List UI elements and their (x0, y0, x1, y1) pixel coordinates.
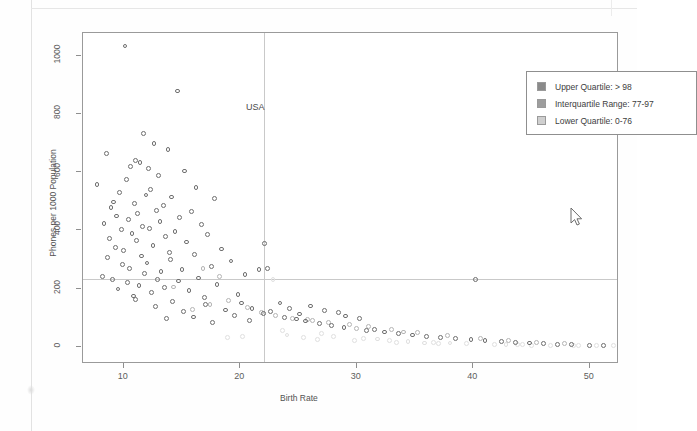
x-axis-tick (472, 363, 473, 368)
legend-item-interquartile-range: Interquartile Range: 77-97 (537, 95, 696, 112)
scatter-point (171, 285, 176, 290)
scatter-point (410, 333, 415, 338)
scatter-point (155, 277, 160, 282)
y-axis-tick-label: 400 (52, 211, 62, 245)
scatter-point (119, 227, 124, 232)
scatter-point (176, 279, 181, 284)
legend-label-interquartile-range: Interquartile Range: 77-97 (555, 99, 654, 109)
scatter-point (205, 232, 210, 237)
legend-item-upper-quartile: Upper Quartile: > 98 (537, 78, 696, 95)
scatter-point (504, 342, 509, 347)
scatter-point (167, 250, 172, 255)
scatter-point (343, 314, 348, 319)
scatter-point (138, 160, 143, 165)
scatter-point (357, 316, 362, 321)
scatter-point (601, 343, 606, 348)
scatter-point (329, 323, 334, 328)
scatter-point (422, 341, 427, 346)
scatter-point (347, 322, 352, 327)
scatter-point (151, 243, 156, 248)
plot-frame: USA Upper Quartile: > 98 Interquartile R… (82, 32, 618, 363)
y-axis-tick-label: 1000 (52, 37, 62, 71)
y-axis-tick (76, 229, 81, 230)
scatter-point (548, 343, 553, 348)
scatter-point (436, 341, 441, 346)
y-axis-tick (76, 113, 81, 114)
scatter-point (164, 316, 169, 321)
scatter-point (114, 214, 119, 219)
scatter-point (104, 151, 109, 156)
y-axis-tick (76, 346, 81, 347)
legend-swatch-lower-quartile (537, 116, 546, 125)
scatter-point (123, 44, 128, 49)
x-axis-tick-label: 20 (224, 371, 254, 381)
scatter-point (372, 327, 377, 332)
scatter-point (181, 309, 186, 314)
y-axis-tick-label: 600 (52, 153, 62, 187)
scatter-point (113, 245, 118, 250)
scatter-point (364, 328, 369, 333)
scatter-point (478, 336, 483, 341)
scatter-point (301, 335, 306, 340)
x-axis-title: Birth Rate (280, 393, 420, 403)
scatter-point (109, 205, 114, 210)
scatter-point (121, 248, 126, 253)
scatter-point (154, 208, 159, 213)
scatter-point (294, 317, 299, 322)
scatter-point (273, 313, 278, 318)
scatter-point (541, 341, 546, 346)
scatter-point (162, 285, 167, 290)
y-axis-title: Phones per 1000 Population (48, 128, 58, 278)
scatter-point (520, 342, 525, 347)
scatter-point (527, 341, 532, 346)
x-axis-tick (239, 363, 240, 368)
scatter-point (406, 339, 411, 344)
scatter-point (287, 306, 292, 311)
legend: Upper Quartile: > 98 Interquartile Range… (526, 71, 697, 135)
scatter-point (261, 311, 266, 316)
scatter-point (107, 236, 112, 241)
scatter-point (110, 277, 115, 282)
page-border-right (611, 0, 612, 16)
scatter-point (141, 131, 146, 136)
scatter-point (116, 287, 121, 292)
scatter-point (280, 328, 285, 333)
x-axis-tick-label: 30 (341, 371, 371, 381)
x-axis-tick-label: 50 (574, 371, 604, 381)
scatter-point (278, 301, 283, 306)
scatter-point (149, 290, 154, 295)
scatter-point (209, 264, 214, 269)
scatter-point (382, 330, 387, 335)
legend-swatch-interquartile-range (537, 99, 546, 108)
scatter-point (611, 343, 616, 348)
scatter-point (453, 336, 458, 341)
scatter-point (303, 319, 308, 324)
legend-label-upper-quartile: Upper Quartile: > 98 (555, 82, 632, 92)
scatter-point (319, 331, 324, 336)
scatter-point (148, 187, 153, 192)
scatter-point (124, 177, 129, 182)
scatter-point (310, 318, 315, 323)
legend-label-lower-quartile: Lower Quartile: 0-76 (555, 116, 632, 126)
scatter-point (159, 269, 164, 274)
x-axis-tick (356, 363, 357, 368)
scan-artifact (27, 385, 35, 395)
y-axis-tick (76, 55, 81, 56)
scatter-point (342, 325, 347, 330)
scatter-point (199, 222, 204, 227)
scatter-point (202, 295, 207, 300)
scatter-point (262, 241, 267, 246)
scatter-point (145, 261, 150, 266)
scatter-point (473, 277, 478, 282)
scatter-point (232, 313, 237, 318)
scatter-point (203, 302, 208, 307)
legend-item-lower-quartile: Lower Quartile: 0-76 (537, 112, 696, 129)
scatter-point (336, 310, 341, 315)
scatter-point (513, 340, 518, 345)
scatter-point (135, 211, 140, 216)
scatter-point (102, 221, 107, 226)
scatter-point (192, 252, 197, 257)
scatter-point (240, 334, 245, 339)
legend-swatch-upper-quartile (537, 82, 546, 91)
